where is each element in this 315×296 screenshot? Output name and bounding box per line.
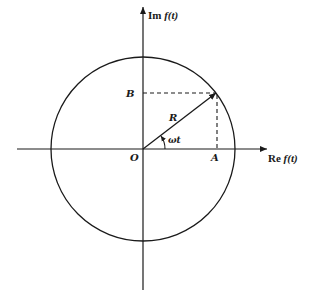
angle-arc-icon bbox=[161, 136, 165, 149]
real-axis-label: Re f(t) bbox=[268, 152, 298, 165]
imaginary-axis-label: Im f(t) bbox=[148, 9, 178, 22]
point-label-a: A bbox=[210, 152, 219, 163]
angle-label-omega-t: ωt bbox=[168, 135, 182, 145]
vector-label-r: R bbox=[168, 112, 177, 123]
phasor-diagram: Im f(t) Re f(t) B O A R ωt bbox=[0, 0, 315, 296]
point-label-origin: O bbox=[130, 152, 139, 163]
point-label-b: B bbox=[125, 88, 134, 99]
